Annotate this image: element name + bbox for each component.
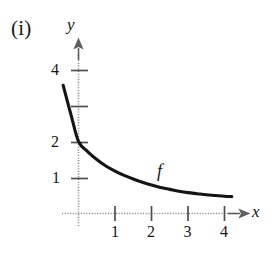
x-tick-label-2: 2 bbox=[147, 224, 155, 240]
part-label: (i) bbox=[11, 18, 31, 39]
x-tick-label-3: 3 bbox=[184, 224, 192, 240]
x-axis-label: x bbox=[252, 203, 260, 220]
function-curve-f bbox=[63, 85, 232, 196]
plot-svg bbox=[0, 0, 279, 257]
y-axis-label: y bbox=[67, 16, 75, 33]
figure-container: (i) y x 4 2 1 1 2 3 4 f bbox=[0, 0, 279, 257]
y-tick-label-2: 2 bbox=[51, 134, 59, 150]
curve-annotation-f: f bbox=[157, 162, 162, 180]
y-tick-label-4: 4 bbox=[51, 62, 59, 78]
y-tick-label-1: 1 bbox=[52, 170, 60, 186]
x-tick-label-4: 4 bbox=[220, 224, 228, 240]
x-tick-label-1: 1 bbox=[111, 224, 119, 240]
